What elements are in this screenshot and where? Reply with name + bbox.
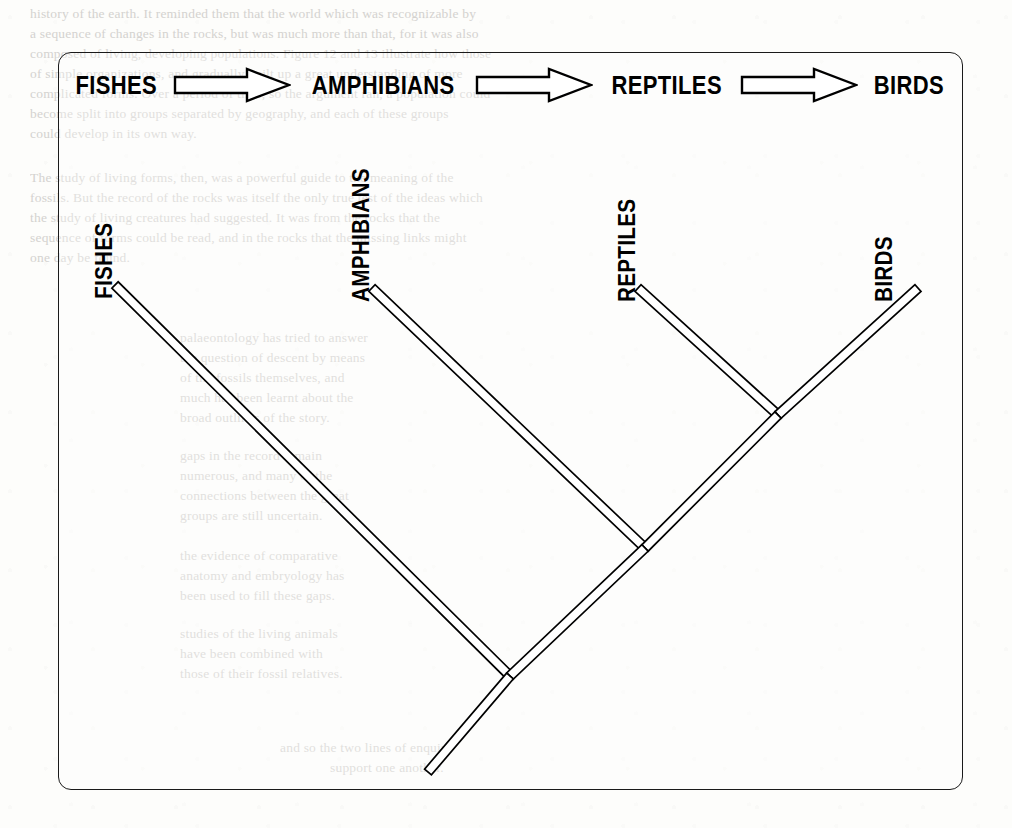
branch-fishes: [112, 282, 513, 679]
figure-page: history of the earth. It reminded them t…: [0, 0, 1012, 828]
branch-group: [112, 282, 921, 775]
evolutionary-sequence-row: FISHES AMPHIBIANS REPTILES BIRDS: [58, 62, 963, 108]
tip-label-amphibians: AMPHIBIANS: [348, 168, 375, 302]
sequence-label-birds: BIRDS: [874, 71, 944, 100]
cladogram-tree: [0, 0, 1012, 828]
branch-reptiles: [635, 285, 781, 419]
tip-label-reptiles: REPTILES: [614, 199, 641, 302]
sequence-label-reptiles: REPTILES: [612, 71, 722, 100]
tip-label-fishes: FISHES: [91, 223, 118, 299]
tip-label-birds: BIRDS: [871, 236, 898, 302]
sequence-label-amphibians: AMPHIBIANS: [312, 71, 455, 100]
branch-amphibians: [369, 285, 648, 552]
arrow-right-icon-1: [173, 67, 291, 103]
branch-root-stem: [425, 673, 514, 775]
arrow-right-icon-2: [475, 67, 593, 103]
branch-internal-lower: [507, 545, 648, 680]
arrow-right-icon-3: [740, 67, 858, 103]
sequence-label-fishes: FISHES: [76, 71, 158, 100]
branch-birds: [775, 285, 921, 419]
branch-internal-upper: [642, 412, 781, 551]
